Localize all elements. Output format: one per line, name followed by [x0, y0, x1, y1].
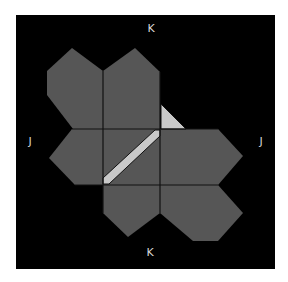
label-right-j: J — [259, 136, 262, 148]
net-diagram — [0, 0, 288, 282]
label-left-j: J — [28, 136, 31, 148]
label-bottom-k: K — [146, 247, 153, 259]
label-top-k: K — [147, 23, 154, 35]
